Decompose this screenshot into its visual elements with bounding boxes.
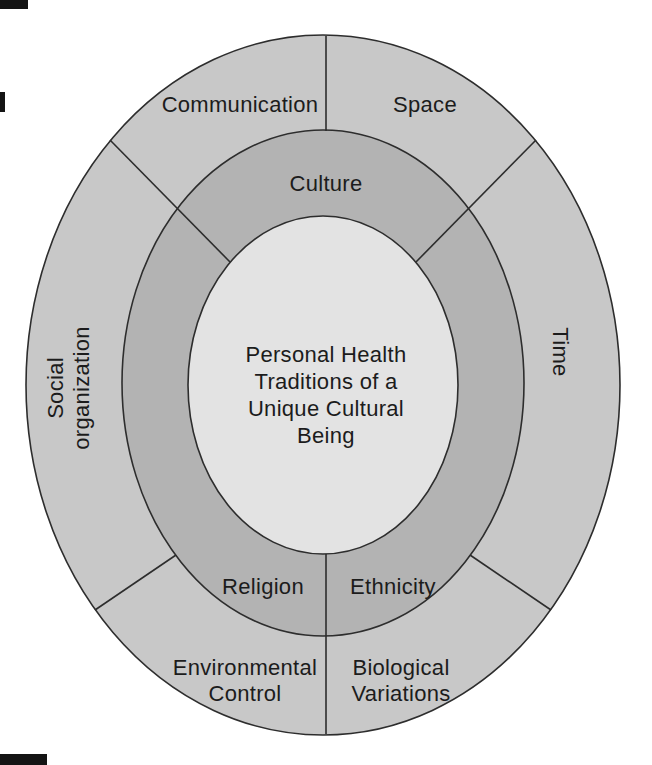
scan-artifact-top-left — [0, 0, 28, 9]
middle-segment-label-ethnicity: Ethnicity — [350, 574, 436, 599]
outer-segment-label-communication: Communication — [162, 92, 319, 117]
scan-artifact-bottom-left — [0, 754, 47, 765]
outer-segment-label-biological-line2: Variations — [351, 681, 450, 706]
outer-segment-label-space: Space — [393, 92, 457, 117]
middle-segment-label-culture: Culture — [289, 171, 362, 196]
scan-artifact-left-edge — [0, 92, 5, 112]
outer-segment-label-environmental-line2: Control — [208, 681, 281, 706]
cultural-heritage-ellipse-diagram: Communication Space Social organization … — [0, 0, 652, 765]
scanned-diagram-page: Communication Space Social organization … — [0, 0, 652, 765]
center-label-line4: Being — [297, 423, 355, 448]
outer-segment-label-time: Time — [548, 327, 573, 376]
outer-segment-label-environmental-line1: Environmental — [173, 655, 318, 680]
center-label-line1: Personal Health — [245, 342, 406, 367]
center-label-line2: Traditions of a — [254, 369, 398, 394]
middle-segment-label-religion: Religion — [222, 574, 304, 599]
center-label-line3: Unique Cultural — [248, 396, 404, 421]
outer-segment-label-social-line2: organization — [69, 326, 94, 449]
outer-segment-label-biological-line1: Biological — [352, 655, 449, 680]
outer-segment-label-social-line1: Social — [43, 357, 68, 419]
